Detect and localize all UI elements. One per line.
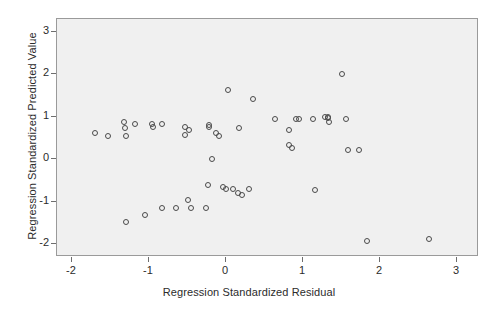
x-axis-tick [71, 257, 72, 262]
data-point [343, 116, 349, 122]
data-point [150, 124, 156, 130]
data-point [122, 125, 128, 131]
data-point [188, 205, 194, 211]
data-point [289, 145, 295, 151]
data-point [426, 236, 432, 242]
data-point [185, 197, 191, 203]
y-axis-tick [51, 116, 56, 117]
y-axis-tick [51, 243, 56, 244]
scatter-plot-figure: Regression Standardized Predicted Value … [0, 0, 498, 309]
y-axis-tick-label: -2 [9, 236, 49, 248]
data-point [312, 187, 318, 193]
x-axis-tick [225, 257, 226, 262]
y-axis-title: Regression Standardized Predicted Value [26, 21, 38, 251]
data-point [132, 121, 138, 127]
x-axis-tick [379, 257, 380, 262]
y-axis-tick [51, 201, 56, 202]
x-axis-tick-label: 0 [205, 264, 245, 276]
data-point [272, 116, 278, 122]
data-point [92, 130, 98, 136]
data-point [105, 133, 111, 139]
data-point [173, 205, 179, 211]
data-point [203, 205, 209, 211]
y-axis-tick [51, 158, 56, 159]
data-point [246, 186, 252, 192]
data-point [123, 133, 129, 139]
data-point [225, 87, 231, 93]
data-point [159, 121, 165, 127]
y-axis-tick-label: 1 [9, 109, 49, 121]
y-axis-tick-label: 0 [9, 151, 49, 163]
x-axis-tick [456, 257, 457, 262]
data-point [325, 115, 331, 121]
y-axis-tick [51, 73, 56, 74]
x-axis-title: Regression Standardized Residual [0, 286, 498, 298]
data-point [356, 147, 362, 153]
data-point [236, 125, 242, 131]
data-point [345, 147, 351, 153]
x-axis-tick-label: 2 [359, 264, 399, 276]
data-point [209, 156, 215, 162]
data-point [310, 116, 316, 122]
y-axis-tick-label: 2 [9, 66, 49, 78]
data-point [123, 219, 129, 225]
data-point [142, 212, 148, 218]
data-point [250, 96, 256, 102]
data-point [223, 186, 229, 192]
x-axis-tick [148, 257, 149, 262]
x-axis-tick-label: -1 [128, 264, 168, 276]
y-axis-tick-label: 3 [9, 24, 49, 36]
x-axis-tick-label: 1 [282, 264, 322, 276]
x-axis-tick-label: 3 [436, 264, 476, 276]
data-point [205, 182, 211, 188]
data-point [239, 192, 245, 198]
x-axis-tick [302, 257, 303, 262]
data-point [364, 238, 370, 244]
data-point [182, 132, 188, 138]
x-axis-tick-label: -2 [51, 264, 91, 276]
data-point [159, 205, 165, 211]
data-point [286, 127, 292, 133]
y-axis-tick-label: -1 [9, 194, 49, 206]
data-point [339, 71, 345, 77]
data-point [216, 133, 222, 139]
y-axis-tick [51, 31, 56, 32]
plot-area [56, 18, 478, 256]
data-point [296, 116, 302, 122]
